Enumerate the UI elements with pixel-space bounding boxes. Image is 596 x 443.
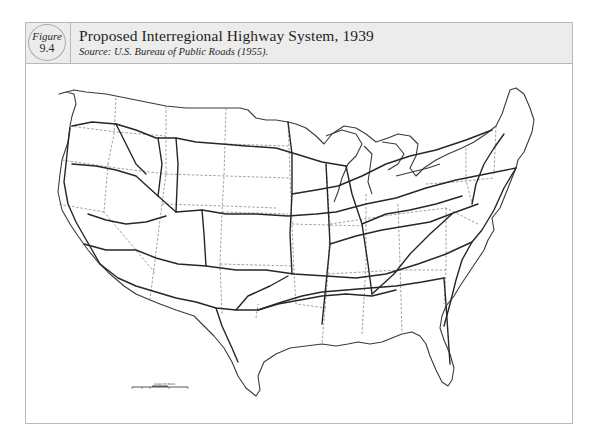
figure-header: Figure 9.4 Proposed Interregional Highwa…	[26, 23, 572, 64]
figure-badge-number: 9.4	[29, 42, 65, 55]
figure-frame: Figure 9.4 Proposed Interregional Highwa…	[25, 22, 573, 424]
scale-bar: SCALE OF MILES	[132, 383, 188, 390]
figure-number-badge: Figure 9.4	[28, 24, 66, 61]
figure-title: Proposed Interregional Highway System, 1…	[79, 27, 374, 45]
state-boundaries	[58, 98, 496, 344]
highway-map: SCALE OF MILES	[26, 64, 574, 424]
figure-source: Source: U.S. Bureau of Public Roads (195…	[79, 46, 268, 57]
highway-routes	[64, 122, 516, 364]
figure-badge-cell: Figure 9.4	[26, 23, 71, 63]
scale-title: SCALE OF MILES	[154, 383, 176, 386]
